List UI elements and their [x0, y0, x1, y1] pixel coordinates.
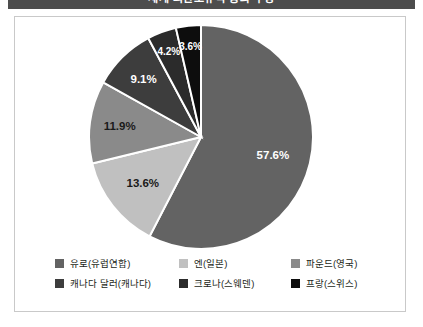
- pie-slice-label: 57.6%: [257, 149, 290, 161]
- pie-slice-label: 11.9%: [104, 120, 136, 132]
- pie-slice-label: 4.2%: [157, 46, 180, 57]
- pie-chart-area: 57.6%13.6%11.9%9.1%4.2%3.6%: [15, 17, 405, 257]
- legend-item-krona[interactable]: 크로나(스웨덴): [179, 278, 291, 289]
- legend-item-canadian-dollar[interactable]: 캐나다 달러(캐나다): [55, 278, 179, 289]
- pie-slice-label: 9.1%: [130, 73, 156, 85]
- legend-swatch-icon: [179, 259, 188, 268]
- legend-swatch-icon: [291, 279, 300, 288]
- legend-item-franc[interactable]: 프랑(스위스): [291, 278, 357, 289]
- legend-label: 프랑(스위스): [306, 278, 357, 289]
- legend-label: 크로나(스웨덴): [194, 278, 254, 289]
- chart-legend: 유로(유럽연합) 엔(일본) 파운드(영국) 캐나다 달러(캐나다): [15, 253, 405, 293]
- legend-label: 캐나다 달러(캐나다): [70, 278, 151, 289]
- chart-panel: 57.6%13.6%11.9%9.1%4.2%3.6% 유로(유럽연합) 엔(일…: [14, 16, 406, 312]
- legend-swatch-icon: [291, 259, 300, 268]
- legend-row: 캐나다 달러(캐나다) 크로나(스웨덴) 프랑(스위스): [15, 273, 405, 293]
- legend-item-yen[interactable]: 엔(일본): [179, 258, 291, 269]
- legend-swatch-icon: [55, 259, 64, 268]
- legend-item-euro[interactable]: 유로(유럽연합): [55, 258, 179, 269]
- chart-title-bar: 세계 외환보유액 통화 구성: [8, 0, 415, 9]
- pie-slice-label: 3.6%: [179, 41, 202, 52]
- legend-label: 유로(유럽연합): [70, 258, 130, 269]
- pie-chart: 57.6%13.6%11.9%9.1%4.2%3.6%: [87, 23, 315, 251]
- legend-label: 엔(일본): [194, 258, 227, 269]
- legend-swatch-icon: [179, 279, 188, 288]
- legend-item-pound[interactable]: 파운드(영국): [291, 258, 357, 269]
- chart-screenshot: 세계 외환보유액 통화 구성 57.6%13.6%11.9%9.1%4.2%3.…: [0, 0, 423, 327]
- legend-row: 유로(유럽연합) 엔(일본) 파운드(영국): [15, 253, 405, 273]
- legend-swatch-icon: [55, 279, 64, 288]
- legend-label: 파운드(영국): [306, 258, 357, 269]
- pie-slice-label: 13.6%: [126, 177, 159, 189]
- page-title: 세계 외환보유액 통화 구성: [8, 0, 415, 5]
